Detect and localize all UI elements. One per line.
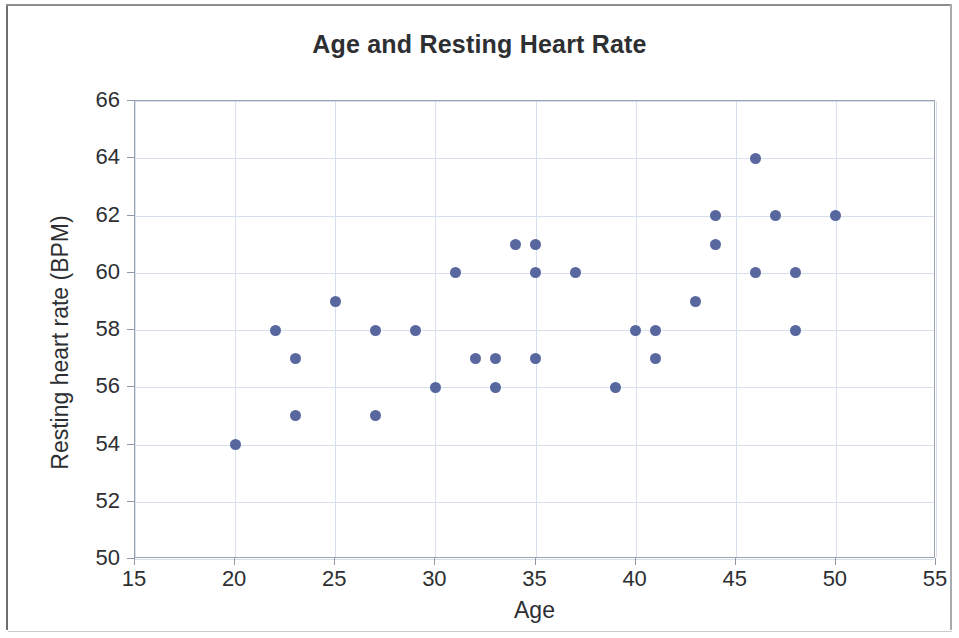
x-tick-mark-35 xyxy=(535,558,536,565)
gridline-vertical-30 xyxy=(435,101,437,557)
data-point xyxy=(830,210,841,221)
x-tick-mark-40 xyxy=(635,558,636,565)
y-tick-mark-58 xyxy=(127,329,134,330)
y-tick-mark-50 xyxy=(127,558,134,559)
gridline-vertical-35 xyxy=(536,101,538,557)
plot-area xyxy=(134,100,935,558)
data-point xyxy=(650,353,661,364)
gridline-horizontal-62 xyxy=(135,216,934,218)
gridline-horizontal-56 xyxy=(135,387,934,389)
x-tick-mark-30 xyxy=(434,558,435,565)
gridline-horizontal-58 xyxy=(135,330,934,332)
data-point xyxy=(530,239,541,250)
data-point xyxy=(510,239,521,250)
data-point xyxy=(710,239,721,250)
x-tick-label-45: 45 xyxy=(705,566,765,592)
x-tick-label-20: 20 xyxy=(204,566,264,592)
data-point xyxy=(230,439,241,450)
x-axis-title: Age xyxy=(134,597,935,624)
data-point xyxy=(330,296,341,307)
data-point xyxy=(750,153,761,164)
data-point xyxy=(370,325,381,336)
data-point xyxy=(470,353,481,364)
data-point xyxy=(690,296,701,307)
data-point xyxy=(290,353,301,364)
x-tick-mark-15 xyxy=(134,558,135,565)
data-point xyxy=(490,382,501,393)
data-point xyxy=(790,325,801,336)
y-tick-label-62: 62 xyxy=(60,202,120,228)
y-tick-mark-56 xyxy=(127,386,134,387)
gridline-vertical-25 xyxy=(335,101,337,557)
x-tick-label-30: 30 xyxy=(404,566,464,592)
data-point xyxy=(610,382,621,393)
data-point xyxy=(770,210,781,221)
data-point xyxy=(270,325,281,336)
y-tick-mark-66 xyxy=(127,100,134,101)
gridline-vertical-55 xyxy=(936,101,938,557)
data-point xyxy=(750,267,761,278)
gridline-vertical-50 xyxy=(836,101,838,557)
data-point xyxy=(290,410,301,421)
x-tick-mark-25 xyxy=(334,558,335,565)
data-point xyxy=(710,210,721,221)
x-tick-mark-45 xyxy=(735,558,736,565)
x-tick-mark-20 xyxy=(234,558,235,565)
data-point xyxy=(570,267,581,278)
y-tick-label-66: 66 xyxy=(60,87,120,113)
x-tick-label-55: 55 xyxy=(905,566,959,592)
gridline-vertical-15 xyxy=(135,101,137,557)
page-frame-right-border xyxy=(950,4,952,630)
y-tick-label-56: 56 xyxy=(60,373,120,399)
scatter-plot-figure: Age and Resting Heart Rate Resting heart… xyxy=(0,0,959,638)
y-tick-label-54: 54 xyxy=(60,431,120,457)
y-tick-mark-60 xyxy=(127,272,134,273)
data-point xyxy=(530,353,541,364)
y-tick-label-58: 58 xyxy=(60,316,120,342)
data-point xyxy=(630,325,641,336)
y-tick-label-52: 52 xyxy=(60,488,120,514)
x-tick-mark-50 xyxy=(835,558,836,565)
data-point xyxy=(370,410,381,421)
y-tick-mark-54 xyxy=(127,444,134,445)
y-tick-label-64: 64 xyxy=(60,144,120,170)
x-tick-label-15: 15 xyxy=(104,566,164,592)
x-tick-label-40: 40 xyxy=(605,566,665,592)
gridline-horizontal-52 xyxy=(135,502,934,504)
page-frame-top-border xyxy=(6,4,952,6)
data-point xyxy=(410,325,421,336)
page-frame-left-border xyxy=(6,4,8,630)
data-point xyxy=(650,325,661,336)
x-tick-label-35: 35 xyxy=(505,566,565,592)
data-point xyxy=(790,267,801,278)
gridline-vertical-45 xyxy=(736,101,738,557)
y-tick-label-60: 60 xyxy=(60,259,120,285)
y-tick-mark-62 xyxy=(127,215,134,216)
gridline-vertical-20 xyxy=(235,101,237,557)
data-point xyxy=(430,382,441,393)
x-tick-label-50: 50 xyxy=(805,566,865,592)
x-tick-label-25: 25 xyxy=(304,566,364,592)
y-tick-mark-64 xyxy=(127,157,134,158)
data-point xyxy=(490,353,501,364)
gridline-horizontal-54 xyxy=(135,445,934,447)
data-point xyxy=(450,267,461,278)
gridline-horizontal-66 xyxy=(135,101,934,103)
chart-title: Age and Resting Heart Rate xyxy=(0,30,959,59)
page-scan-line xyxy=(8,631,952,632)
x-tick-mark-55 xyxy=(935,558,936,565)
gridline-horizontal-64 xyxy=(135,158,934,160)
data-point xyxy=(530,267,541,278)
y-tick-mark-52 xyxy=(127,501,134,502)
